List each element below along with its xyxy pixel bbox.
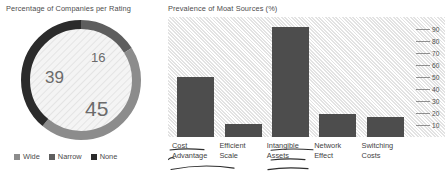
bar-chart-panel: Prevalence of Moat Sources (%) 102030405… (168, 0, 445, 178)
donut-value-wide: 45 (85, 98, 108, 119)
bar-switching-costs (367, 117, 404, 137)
legend-swatch-icon (91, 154, 97, 160)
bar-cost-advantage (177, 77, 214, 137)
donut-legend: Wide Narrow None (14, 152, 117, 161)
y-tick-60: 60 (416, 61, 445, 69)
y-tick-90: 90 (416, 25, 445, 33)
y-tick-line (416, 29, 430, 30)
y-tick-label: 60 (432, 62, 445, 69)
donut-svg (19, 18, 143, 142)
legend-item-wide[interactable]: Wide (14, 152, 40, 161)
y-tick-label: 30 (432, 98, 445, 105)
legend-swatch-icon (14, 154, 20, 160)
donut-value-narrow: 16 (91, 51, 105, 64)
y-tick-line (416, 89, 430, 90)
y-tick-line (416, 125, 430, 126)
y-axis-right: 102030405060708090 (405, 17, 445, 137)
legend-item-narrow[interactable]: Narrow (49, 152, 82, 161)
y-tick-label: 20 (432, 110, 445, 117)
x-axis-label-cost-advantage: CostAdvantage (172, 141, 207, 160)
x-axis-label-network-effect: NetworkEffect (314, 141, 341, 160)
y-tick-line (416, 65, 430, 66)
handwritten-annotations (168, 139, 445, 178)
bar-chart-plot-area: 102030405060708090 (168, 17, 445, 137)
y-tick-line (416, 113, 430, 114)
x-axis-label-efficient-scale: EfficientScale (219, 141, 245, 160)
legend-swatch-icon (49, 154, 55, 160)
y-tick-line (416, 101, 430, 102)
figure-root: Percentage of Companies per Rating (0, 0, 445, 178)
x-axis-label-intangible-assets: IntangibleAssets (267, 141, 299, 160)
donut-chart-panel: Percentage of Companies per Rating (0, 0, 163, 178)
x-axis-labels: CostAdvantageEfficientScaleIntangibleAss… (168, 139, 445, 178)
y-tick-10: 10 (416, 121, 445, 129)
y-tick-70: 70 (416, 49, 445, 57)
y-tick-label: 70 (432, 50, 445, 57)
y-tick-label: 50 (432, 74, 445, 81)
y-tick-label: 10 (432, 122, 445, 129)
y-tick-label: 80 (432, 38, 445, 45)
y-tick-50: 50 (416, 73, 445, 81)
y-tick-line (416, 53, 430, 54)
bar-chart-title: Prevalence of Moat Sources (%) (168, 4, 277, 13)
donut-chart: 16 39 45 (19, 18, 143, 142)
legend-label-narrow: Narrow (58, 152, 82, 161)
legend-label-none: None (100, 152, 118, 161)
donut-chart-title: Percentage of Companies per Rating (6, 4, 131, 13)
legend-item-none[interactable]: None (91, 152, 118, 161)
legend-label-wide: Wide (23, 152, 40, 161)
x-axis-label-switching-costs: SwitchingCosts (362, 141, 394, 160)
bar-series (168, 17, 445, 137)
y-tick-line (416, 41, 430, 42)
y-tick-80: 80 (416, 37, 445, 45)
y-tick-30: 30 (416, 97, 445, 105)
bar-network-effect (319, 114, 356, 137)
y-tick-line (416, 77, 430, 78)
y-tick-label: 40 (432, 86, 445, 93)
y-tick-40: 40 (416, 85, 445, 93)
bar-intangible-assets (272, 27, 309, 137)
bar-efficient-scale (225, 124, 262, 137)
y-tick-label: 90 (432, 26, 445, 33)
y-tick-20: 20 (416, 109, 445, 117)
donut-value-none: 39 (45, 69, 64, 86)
